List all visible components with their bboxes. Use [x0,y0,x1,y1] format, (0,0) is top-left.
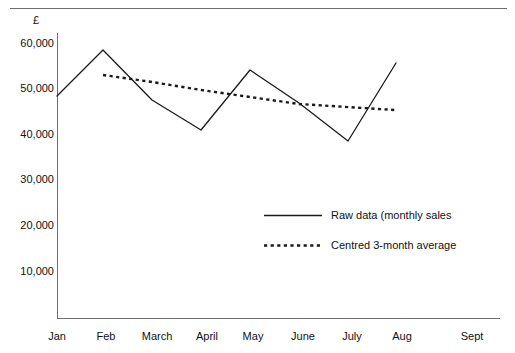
x-tick-label-july: July [342,330,362,343]
x-tick-label-feb: Feb [97,330,116,343]
x-tick-label-june: June [291,330,315,343]
series-centred-average-line [103,75,395,110]
series-raw-data-line [57,50,396,141]
x-tick-label-march: March [142,330,173,343]
legend-label-raw-data: Raw data (monthly sales [331,209,451,222]
x-tick-label-aug: Aug [392,330,412,343]
plot-area [0,0,515,353]
x-tick-label-april: April [196,330,218,343]
x-tick-label-may: May [243,330,264,343]
x-tick-label-jan: Jan [48,330,66,343]
legend-label-centred-average: Centred 3-month average [331,239,456,252]
chart-container: £ 60,000 50,000 40,000 30,000 20,000 10,… [0,0,515,353]
x-tick-label-sept: Sept [461,330,484,343]
